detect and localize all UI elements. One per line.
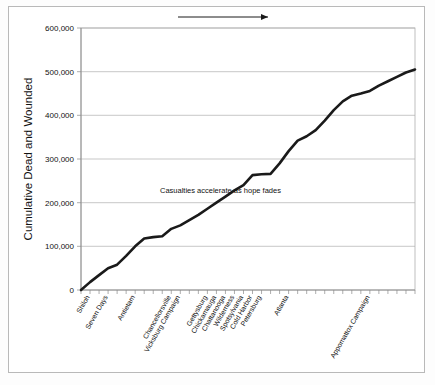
y-tick-label-500000: 500,000	[45, 68, 74, 77]
x-tick-label: Appomattox Campaign	[329, 294, 372, 360]
civil-war-casualties-line-chart: Cumulative Dead and Wounded 600,000 500,…	[0, 0, 435, 385]
casualties-line-series	[81, 69, 415, 290]
y-tick-label-300000: 300,000	[45, 155, 74, 164]
x-tick-label: Antietam	[116, 294, 136, 322]
y-tick-label-600000: 600,000	[45, 24, 74, 33]
y-tick-label-100000: 100,000	[45, 242, 74, 251]
y-tick-label-400000: 400,000	[45, 111, 74, 120]
y-axis-title: Cumulative Dead and Wounded	[22, 78, 34, 241]
y-tick-label-200000: 200,000	[45, 199, 74, 208]
y-axis-ticks: 600,000 500,000 400,000 300,000 200,000 …	[45, 24, 81, 295]
x-axis-labels: ShilohSeven DaysAntietamChancellorsville…	[75, 293, 372, 359]
time-arrow-icon	[178, 14, 268, 20]
y-tick-label-0: 0	[70, 286, 75, 295]
casualties-annotation: Casualties accelerate as hope fades	[160, 186, 281, 195]
x-tick-label: Shiloh	[75, 294, 91, 314]
gridlines	[81, 28, 415, 246]
x-tick-label: Atlanta	[273, 294, 290, 316]
x-axis-ticks	[81, 290, 415, 294]
chart-figure: Cumulative Dead and Wounded 600,000 500,…	[0, 0, 435, 385]
